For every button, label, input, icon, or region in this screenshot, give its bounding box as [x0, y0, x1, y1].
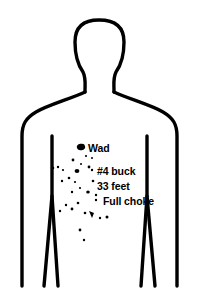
annotation-buck: #4 buck — [97, 166, 135, 177]
annotation-distance: 33 feet — [97, 181, 130, 192]
wad-mark — [76, 143, 86, 151]
annotation-choke: Full choke — [103, 196, 154, 207]
annotation-wad: Wad — [88, 143, 109, 154]
ballistics-figure: Wad #4 buck 33 feet Full choke — [0, 0, 199, 296]
